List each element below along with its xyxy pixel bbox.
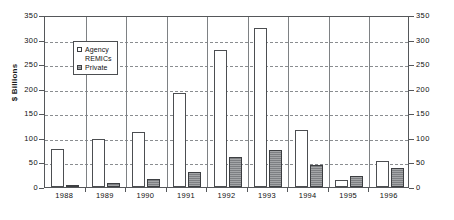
category-separator [369, 17, 370, 187]
y-tick-mark-right [409, 163, 414, 164]
bar-agency-1996 [376, 161, 389, 187]
gridline [45, 115, 408, 116]
y-tick-label-right: 0 [416, 183, 454, 192]
bar-agency-1994 [295, 130, 308, 187]
category-separator [207, 17, 208, 187]
y-tick-label-left: 0 [0, 183, 38, 192]
y-tick-mark-right [409, 188, 414, 189]
bar-chart: $ Billions 050100150200250300350 0501001… [0, 0, 454, 220]
bar-private-1993 [269, 150, 282, 187]
y-tick-mark-left [39, 188, 44, 189]
y-tick-label-left: 350 [0, 11, 38, 20]
legend-item-private: Private [77, 63, 112, 71]
y-tick-mark-right [409, 139, 414, 140]
remics-swatch-icon [77, 56, 82, 61]
y-tick-label-right: 300 [416, 36, 454, 45]
bar-private-1996 [391, 168, 404, 187]
bar-private-1989 [107, 183, 120, 187]
category-separator [126, 17, 127, 187]
y-tick-label-right: 50 [416, 158, 454, 167]
bar-private-1988 [66, 185, 79, 187]
y-tick-label-left: 200 [0, 85, 38, 94]
bar-agency-1995 [335, 180, 348, 187]
category-separator [248, 17, 249, 187]
legend-label-remics: REMICs [85, 55, 112, 62]
bar-private-1995 [350, 176, 363, 187]
bar-agency-1990 [132, 132, 145, 187]
agency-swatch-icon [77, 47, 82, 52]
bar-private-1990 [147, 179, 160, 187]
category-separator [167, 17, 168, 187]
y-tick-label-left: 100 [0, 134, 38, 143]
bar-private-1994 [310, 165, 323, 187]
bar-agency-1993 [254, 28, 267, 187]
y-tick-label-left: 150 [0, 109, 38, 118]
y-tick-label-right: 250 [416, 60, 454, 69]
y-tick-label-left: 250 [0, 60, 38, 69]
y-tick-label-right: 150 [416, 109, 454, 118]
chart-legend: Agency REMICs Private [73, 41, 118, 75]
y-tick-mark-right [409, 90, 414, 91]
bar-agency-1989 [92, 139, 105, 187]
category-separator [329, 17, 330, 187]
y-tick-mark-right [409, 16, 414, 17]
bar-private-1991 [188, 172, 201, 187]
bar-agency-1991 [173, 93, 186, 187]
legend-label-private: Private [85, 64, 108, 71]
y-tick-label-right: 350 [416, 11, 454, 20]
gridline [45, 91, 408, 92]
y-tick-label-left: 50 [0, 158, 38, 167]
y-tick-label-right: 200 [416, 85, 454, 94]
y-tick-mark-right [409, 41, 414, 42]
y-tick-label-left: 300 [0, 36, 38, 45]
legend-item-remics: REMICs [77, 54, 112, 62]
private-swatch-icon [77, 65, 82, 70]
bar-private-1992 [229, 157, 242, 187]
x-tick-label: 1996 [359, 191, 419, 200]
y-tick-label-right: 100 [416, 134, 454, 143]
bar-agency-1988 [51, 149, 64, 187]
legend-item-agency: Agency [77, 45, 112, 53]
bar-agency-1992 [214, 50, 227, 187]
legend-label-agency: Agency [85, 46, 109, 53]
y-tick-mark-right [409, 65, 414, 66]
category-separator [288, 17, 289, 187]
y-tick-mark-right [409, 114, 414, 115]
